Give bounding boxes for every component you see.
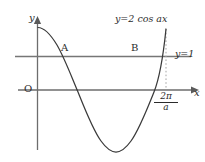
x-tick-denominator: a: [152, 103, 180, 112]
horizontal-line-label: y=1: [175, 49, 194, 59]
point-a-label: A: [61, 43, 68, 53]
point-b-label: B: [131, 43, 138, 53]
y-axis-label: y: [29, 13, 35, 23]
math-figure: y x O A B y=2 cos ax y=1 2π a: [0, 0, 205, 162]
y-axis: [34, 16, 41, 150]
x-tick-numerator: 2π: [152, 92, 180, 101]
x-axis-label: x: [194, 88, 200, 98]
graph-canvas: [0, 0, 205, 162]
x-tick-label-period: 2π a: [152, 92, 180, 113]
origin-label: O: [24, 84, 32, 94]
curve-equation-label: y=2 cos ax: [115, 14, 167, 24]
